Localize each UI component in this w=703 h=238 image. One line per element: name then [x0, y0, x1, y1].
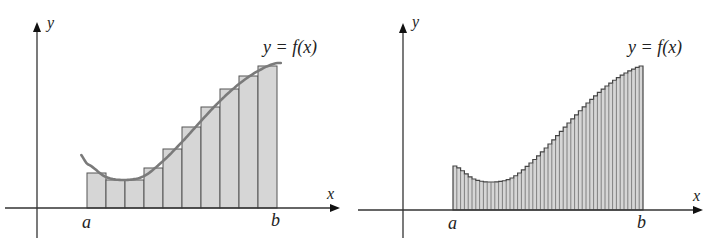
- riemann-rectangle: [106, 180, 125, 208]
- y-axis-arrow-icon: [399, 23, 407, 33]
- y-axis-arrow-icon: [33, 22, 41, 32]
- riemann-rectangle: [87, 173, 106, 208]
- left-curve-label: y = f(x): [263, 38, 317, 56]
- right-y-axis-label: y: [412, 14, 419, 30]
- left-y-axis-label: y: [47, 15, 54, 31]
- riemann-rectangle: [239, 76, 258, 208]
- x-axis-arrow-icon: [330, 204, 340, 212]
- riemann-rectangle: [201, 107, 220, 208]
- left-panel-10-rectangles: y x a b y = f(x): [0, 0, 350, 238]
- right-riemann-plot: [353, 0, 703, 238]
- left-riemann-plot: [0, 0, 350, 238]
- riemann-rectangle: [258, 66, 277, 208]
- riemann-rectangle: [220, 89, 239, 208]
- right-a-label: a: [448, 214, 457, 232]
- rectangles: [87, 66, 277, 208]
- left-a-label: a: [82, 213, 91, 231]
- right-curve-label: y = f(x): [628, 38, 682, 56]
- right-x-axis-label: x: [693, 188, 700, 204]
- right-b-label: b: [637, 213, 646, 231]
- right-panel-many-rectangles: y x a b y = f(x): [353, 0, 703, 238]
- left-b-label: b: [271, 211, 280, 229]
- left-x-axis-label: x: [327, 186, 334, 202]
- thin-rectangles: [453, 66, 643, 210]
- riemann-rectangle: [125, 180, 144, 208]
- x-axis-arrow-icon: [693, 206, 703, 214]
